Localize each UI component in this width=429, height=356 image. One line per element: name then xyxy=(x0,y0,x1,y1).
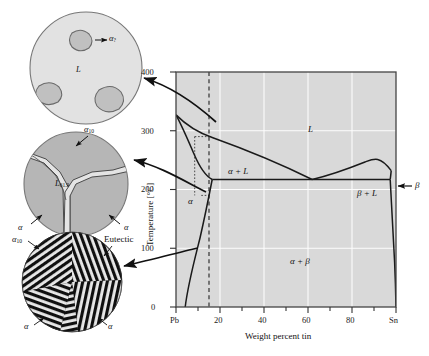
eutectic-micrograph xyxy=(22,232,122,332)
x-axis-title: Weight percent tin xyxy=(245,331,311,341)
micrograph-label-liquid-619: L61.9 xyxy=(55,178,69,188)
micrograph-label-alpha-10-bottom: α10 xyxy=(12,234,22,244)
x-tick-60: 60 xyxy=(302,315,311,325)
x-tick-40: 40 xyxy=(258,315,267,325)
micrograph-label-alpha-left-bottom: α xyxy=(24,321,28,331)
y-tick-300: 300 xyxy=(141,126,154,136)
x-tick-sn: Sn xyxy=(389,315,398,325)
micrograph-label-alpha-10-mid: α10 xyxy=(84,124,94,134)
phase-label-beta-plus-liquid: β + L xyxy=(357,188,377,198)
micrograph-label-liquid: L xyxy=(76,64,81,74)
y-axis-ticks xyxy=(170,72,176,307)
x-tick-20: 20 xyxy=(214,315,223,325)
micrograph-label-alpha-right-mid: α xyxy=(124,222,128,232)
y-tick-100: 100 xyxy=(141,243,154,253)
micrograph-label-eutectic: Eutectic xyxy=(104,234,133,244)
alpha-10-pointer-bottom xyxy=(28,241,39,249)
micrograph-label-alpha-right-bottom: α xyxy=(108,321,112,331)
micrograph-label-alpha-particle: α? xyxy=(109,33,116,43)
y-tick-200: 200 xyxy=(141,184,154,194)
liquid-micrograph xyxy=(30,12,142,124)
x-tick-pb: Pb xyxy=(170,315,179,325)
solidus-beta-side xyxy=(390,171,391,180)
phase-label-alpha-plus-beta: α + β xyxy=(290,256,310,266)
y-tick-0: 0 xyxy=(151,302,155,312)
y-tick-400: 400 xyxy=(141,67,154,77)
x-tick-80: 80 xyxy=(346,315,355,325)
phase-label-alpha-plus-liquid: α + L xyxy=(228,166,248,176)
alpha-liquid-micrograph xyxy=(24,132,130,236)
x-axis-ticks xyxy=(176,307,396,313)
figure-root: Temperature [°C] 0 100 200 300 400 Pb 20… xyxy=(0,0,429,356)
phase-label-beta: β xyxy=(415,180,419,190)
micrograph-label-alpha-left-mid: α xyxy=(18,222,22,232)
phase-label-liquid: L xyxy=(308,124,313,134)
phase-label-alpha: α xyxy=(188,196,193,206)
